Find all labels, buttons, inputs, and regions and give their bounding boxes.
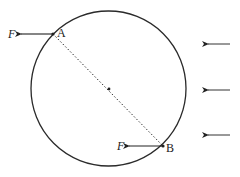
diameter-dotted-line (53, 34, 163, 146)
point-label-a: A (57, 27, 66, 39)
diagram-canvas: F A F B (0, 0, 240, 177)
point-label-b: B (166, 142, 174, 154)
force-label-a: F (8, 28, 15, 40)
center-dot (108, 88, 111, 91)
force-label-b: F (117, 140, 124, 152)
